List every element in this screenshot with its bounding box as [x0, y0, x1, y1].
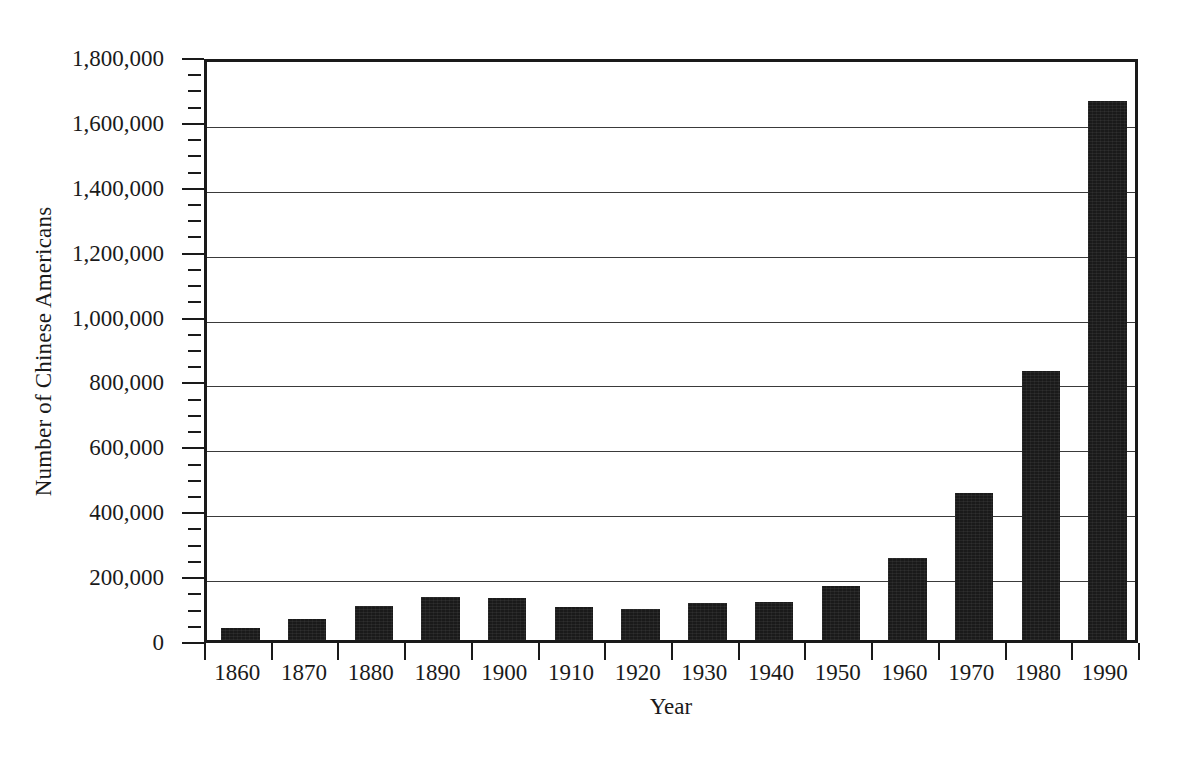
x-axis-tick-label: 1930 [681, 660, 727, 686]
y-axis-minor-tick [188, 528, 201, 530]
y-axis-major-tick [182, 642, 204, 644]
x-axis-tick [538, 643, 540, 660]
x-axis-tick-label: 1900 [481, 660, 527, 686]
y-axis-minor-tick [188, 610, 201, 612]
x-axis-tick [337, 643, 339, 660]
gridline [207, 581, 1135, 582]
bar [755, 602, 793, 640]
y-axis-minor-tick [188, 366, 201, 368]
x-axis-tick [271, 643, 273, 660]
y-axis-major-tick [182, 318, 204, 320]
y-axis-minor-tick [188, 431, 201, 433]
y-axis-major-tick [182, 447, 204, 449]
y-axis-major-tick [182, 512, 204, 514]
y-axis-minor-tick [188, 236, 201, 238]
x-axis-tick-label: 1910 [548, 660, 594, 686]
y-axis-minor-tick [188, 464, 201, 466]
bar [555, 607, 593, 640]
gridline [207, 386, 1135, 387]
bar [822, 586, 860, 640]
bar [955, 493, 993, 640]
x-axis-tick-labels: 1860187018801890190019101920193019401950… [204, 660, 1138, 692]
y-axis-minor-tick [188, 334, 201, 336]
y-axis-minor-tick [188, 155, 201, 157]
x-axis-tick [938, 643, 940, 660]
x-axis-tick [1071, 643, 1073, 660]
y-axis-minor-tick [188, 626, 201, 628]
x-axis-tick-label: 1980 [1015, 660, 1061, 686]
x-axis-tick [404, 643, 406, 660]
y-axis-minor-tick [188, 545, 201, 547]
y-axis-minor-tick [188, 415, 201, 417]
y-axis-minor-tick [188, 90, 201, 92]
x-axis-tick [471, 643, 473, 660]
plot-area [204, 59, 1138, 643]
x-axis-title: Year [204, 694, 1138, 720]
y-axis-minor-tick [188, 220, 201, 222]
y-axis-minor-tick [188, 350, 201, 352]
bar [421, 597, 459, 640]
y-axis-minor-tick [188, 74, 201, 76]
gridline [207, 127, 1135, 128]
x-axis-tick-label: 1860 [214, 660, 260, 686]
y-axis-major-tick [182, 382, 204, 384]
bar [288, 619, 326, 640]
bar [488, 598, 526, 640]
y-axis-minor-tick [188, 172, 201, 174]
y-axis-major-tick [182, 577, 204, 579]
x-axis-tick-label: 1920 [615, 660, 661, 686]
y-axis-major-tick [182, 253, 204, 255]
y-axis-minor-tick [188, 480, 201, 482]
x-axis-tick-label: 1890 [415, 660, 461, 686]
y-axis-minor-tick [188, 301, 201, 303]
y-axis-major-tick [182, 123, 204, 125]
y-axis-minor-tick [188, 204, 201, 206]
x-axis-tick [604, 643, 606, 660]
y-axis-minor-tick [188, 139, 201, 141]
bar [688, 603, 726, 640]
x-axis-tick-label: 1880 [348, 660, 394, 686]
x-axis-tick-label: 1990 [1082, 660, 1128, 686]
chart-figure: Number of Chinese Americans 0200,000400,… [0, 0, 1189, 757]
y-axis-minor-tick [188, 561, 201, 563]
x-axis-tick-label: 1870 [281, 660, 327, 686]
x-axis-tick [1005, 643, 1007, 660]
bar [1088, 101, 1126, 640]
y-axis-major-tick [182, 58, 204, 60]
y-axis-minor-tick [188, 399, 201, 401]
y-axis-tick-marks [0, 59, 204, 643]
x-axis-tick [871, 643, 873, 660]
y-axis-minor-tick [188, 285, 201, 287]
x-axis-tick [738, 643, 740, 660]
x-axis-tick [804, 643, 806, 660]
y-axis-minor-tick [188, 496, 201, 498]
y-axis-minor-tick [188, 593, 201, 595]
bar [221, 628, 259, 640]
x-axis-tick [204, 643, 206, 660]
x-axis-tick [671, 643, 673, 660]
x-axis-tick-label: 1960 [882, 660, 928, 686]
x-axis-tick-label: 1940 [748, 660, 794, 686]
bar [1022, 371, 1060, 640]
gridline [207, 322, 1135, 323]
y-axis-minor-tick [188, 269, 201, 271]
gridline [207, 451, 1135, 452]
y-axis-minor-tick [188, 107, 201, 109]
x-axis-tick-label: 1950 [815, 660, 861, 686]
bar [355, 606, 393, 640]
x-axis-tick-label: 1970 [948, 660, 994, 686]
y-axis-major-tick [182, 188, 204, 190]
gridline [207, 257, 1135, 258]
bar [621, 609, 659, 640]
gridline [207, 516, 1135, 517]
gridline [207, 192, 1135, 193]
bar [888, 558, 926, 640]
x-axis-tick [1138, 643, 1140, 660]
x-axis-tick-marks [204, 643, 1138, 661]
